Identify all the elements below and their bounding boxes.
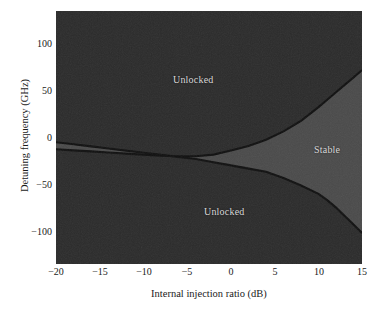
region-label-unlocked-upper: Unlocked — [173, 74, 213, 85]
xtick-label-neg10: −10 — [124, 266, 164, 277]
noise-texture-overlay — [56, 11, 362, 264]
stability-map-svg — [56, 11, 362, 264]
x-axis-label: Internal injection ratio (dB) — [56, 288, 362, 299]
xtick-label-neg15: −15 — [80, 266, 120, 277]
xtick-label-neg20: −20 — [36, 266, 76, 277]
xtick-label-5: 5 — [255, 266, 295, 277]
region-label-unlocked-lower: Unlocked — [204, 206, 244, 217]
ytick-label-neg100: −100 — [0, 226, 52, 237]
xtick-label-neg5: −5 — [167, 266, 207, 277]
ytick-label-100: 100 — [0, 38, 52, 49]
xtick-label-0: 0 — [211, 266, 251, 277]
xtick-label-15: 15 — [342, 266, 382, 277]
xtick-label-10: 10 — [299, 266, 339, 277]
y-axis-label: Detuning frequency (GHz) — [19, 56, 30, 216]
region-label-stable: Stable — [314, 144, 340, 155]
plot-area: Unlocked Unlocked Stable — [56, 11, 362, 264]
phase-diagram-figure: Unlocked Unlocked Stable 100 50 0 −50 −1… — [0, 0, 383, 317]
